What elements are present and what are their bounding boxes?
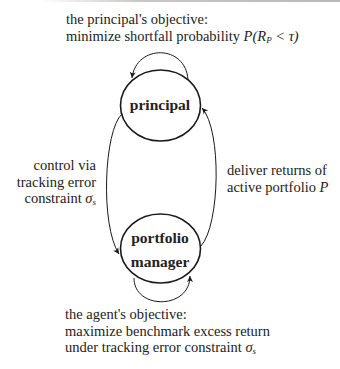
principal-node-label: principal — [120, 96, 200, 114]
agent-objective-annotation: the agent's objective: maximize benchmar… — [65, 306, 270, 356]
principal-objective-line1: the principal's objective: — [66, 11, 299, 28]
agent-objective-text: under tracking error constraint — [65, 339, 245, 355]
deliver-label-line1: deliver returns of — [227, 162, 328, 179]
agent-objective-line1: the agent's objective: — [65, 306, 270, 323]
control-label-line1: control via — [17, 157, 96, 174]
sigma: σ — [245, 339, 252, 355]
agent-objective-line2: maximize benchmark excess return — [65, 323, 270, 340]
sigma-s-symbol: σs — [85, 190, 96, 206]
principal-objective-line2: minimize shortfall probability P(RP < τ) — [66, 28, 299, 45]
portfolio-manager-label-line2: manager — [120, 250, 200, 274]
control-edge-label: control via tracking error constraint σs — [17, 157, 96, 207]
agent-objective-line3: under tracking error constraint σs — [65, 339, 270, 356]
principal-label-text: principal — [130, 96, 190, 113]
formula-p-r: P(R — [244, 28, 267, 44]
sigma-subscript: s — [92, 197, 96, 207]
principal-objective-annotation: the principal's objective: minimize shor… — [66, 11, 299, 44]
portfolio-symbol-p: P — [320, 179, 329, 195]
deliver-edge-label: deliver returns of active portfolio P — [227, 162, 328, 195]
principal-self-loop-arrow — [132, 53, 188, 80]
portfolio-manager-node-label: portfolio manager — [120, 226, 200, 274]
deliver-label-text: active portfolio — [227, 179, 320, 195]
deliver-label-line2: active portfolio P — [227, 179, 328, 196]
portfolio-manager-label-line1: portfolio — [120, 226, 200, 250]
control-label-text: constraint — [25, 190, 86, 206]
formula-lt-tau: < τ) — [272, 28, 299, 44]
control-label-line2: tracking error — [17, 174, 96, 191]
shortfall-formula: P(RP < τ) — [244, 28, 299, 44]
sigma-s-symbol: σs — [245, 339, 256, 355]
control-label-line3: constraint σs — [17, 190, 96, 207]
sigma-subscript: s — [253, 346, 257, 356]
deliver-returns-arrow — [201, 108, 216, 246]
principal-objective-text: minimize shortfall probability — [66, 28, 244, 44]
